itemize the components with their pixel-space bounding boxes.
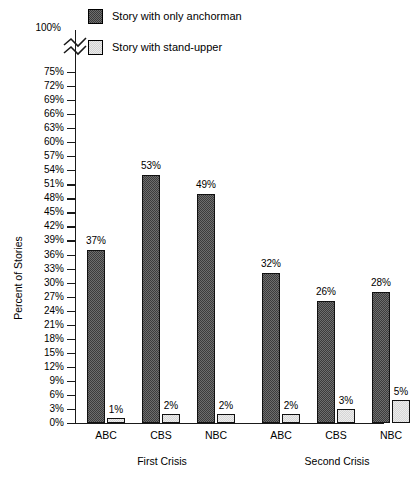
y-tick-mark <box>67 395 75 396</box>
y-axis-title: Percent of Stories <box>12 213 24 343</box>
bar-anchorman-2 <box>197 194 215 423</box>
y-tick-label: 60% <box>44 135 64 148</box>
y-tick-label: 72% <box>44 79 64 92</box>
y-tick-label: 51% <box>44 177 64 190</box>
y-tick-label: 45% <box>44 205 64 218</box>
y-tick-label: 30% <box>44 276 64 289</box>
x-category-label-2: NBC <box>189 429 243 441</box>
y-tick-label: 75% <box>44 65 64 78</box>
bar-value-standupper-2: 2% <box>211 400 241 411</box>
y-tick-mark <box>67 170 75 171</box>
bar-value-anchorman-3: 32% <box>256 258 286 269</box>
y-tick-mark <box>67 86 75 87</box>
y-tick-mark <box>67 283 75 284</box>
y-tick-label: 69% <box>44 93 64 106</box>
y-tick-mark <box>67 156 75 157</box>
y-tick-mark <box>67 198 75 199</box>
bar-value-standupper-4: 3% <box>331 395 361 406</box>
bar-value-standupper-1: 2% <box>156 400 186 411</box>
bar-standupper-1 <box>162 414 180 423</box>
bar-standupper-4 <box>337 409 355 423</box>
y-tick-label: 24% <box>44 304 64 317</box>
bar-value-anchorman-2: 49% <box>191 179 221 190</box>
y-tick-mark <box>67 240 75 241</box>
bar-anchorman-0 <box>87 250 105 423</box>
y-tick-mark <box>67 226 75 227</box>
group-label-0: First Crisis <box>122 455 202 467</box>
y-tick-label: 33% <box>44 262 64 275</box>
y-tick-mark <box>67 353 75 354</box>
y-tick-mark <box>67 212 75 213</box>
bar-anchorman-1 <box>142 175 160 423</box>
y-tick-label: 39% <box>44 233 64 246</box>
bar-value-anchorman-5: 28% <box>366 277 396 288</box>
bar-standupper-5 <box>392 400 410 423</box>
y-tick-mark <box>67 409 75 410</box>
y-tick-label: 36% <box>44 248 64 261</box>
y-tick-mark <box>67 100 75 101</box>
y-tick-label: 0% <box>50 416 64 429</box>
y-tick-mark <box>67 423 75 424</box>
y-tick-mark <box>67 381 75 382</box>
y-tick-label: 48% <box>44 191 64 204</box>
y-tick-mark <box>67 325 75 326</box>
y-tick-label: 27% <box>44 290 64 303</box>
y-tick-mark <box>67 72 75 73</box>
bar-value-anchorman-0: 37% <box>81 235 111 246</box>
x-category-label-3: ABC <box>254 429 308 441</box>
y-tick-mark <box>67 339 75 340</box>
y-tick-mark <box>67 311 75 312</box>
bar-value-anchorman-4: 26% <box>311 286 341 297</box>
y-tick-mark <box>67 297 75 298</box>
bar-standupper-0 <box>107 418 125 423</box>
x-category-label-1: CBS <box>134 429 188 441</box>
y-tick-label: 21% <box>44 318 64 331</box>
bar-value-standupper-0: 1% <box>101 404 131 415</box>
y-tick-mark <box>67 142 75 143</box>
bar-anchorman-5 <box>372 292 390 423</box>
x-category-label-0: ABC <box>79 429 133 441</box>
plot-area: 37%1%53%2%49%2%32%2%26%3%28%5% <box>75 0 384 424</box>
y-tick-label: 66% <box>44 107 64 120</box>
x-category-label-5: NBC <box>364 429 414 441</box>
y-tick-label: 57% <box>44 149 64 162</box>
bar-value-standupper-5: 5% <box>386 386 414 397</box>
y-tick-label: 3% <box>50 402 64 415</box>
bar-value-anchorman-1: 53% <box>136 160 166 171</box>
bar-standupper-3 <box>282 414 300 423</box>
y-tick-label: 6% <box>50 388 64 401</box>
y-tick-mark <box>67 367 75 368</box>
bar-value-standupper-3: 2% <box>276 400 306 411</box>
bar-standupper-2 <box>217 414 235 423</box>
y-tick-label: 12% <box>44 360 64 373</box>
y-tick-label: 9% <box>50 374 64 387</box>
y-tick-label: 100% <box>35 21 61 34</box>
y-tick-label: 54% <box>44 163 64 176</box>
y-tick-label: 15% <box>44 346 64 359</box>
y-tick-mark <box>67 128 75 129</box>
y-tick-label: 18% <box>44 332 64 345</box>
y-tick-label: 63% <box>44 121 64 134</box>
y-tick-mark <box>67 184 75 185</box>
x-category-label-4: CBS <box>309 429 363 441</box>
group-label-1: Second Crisis <box>297 455 377 467</box>
y-tick-mark <box>67 114 75 115</box>
y-tick-mark <box>67 269 75 270</box>
y-tick-mark <box>67 255 75 256</box>
y-tick-label: 42% <box>44 219 64 232</box>
